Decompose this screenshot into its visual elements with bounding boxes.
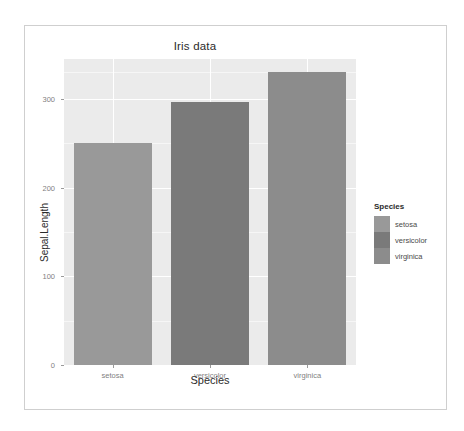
legend-swatch-setosa [374, 216, 390, 232]
x-axis-title: Species [64, 374, 356, 386]
plot-card: Iris data Sepal.Length 0100200300 setosa… [24, 25, 447, 410]
legend: Species setosaversicolorvirginica [374, 202, 444, 264]
x-tick-mark [210, 365, 211, 368]
bar-virginica [268, 72, 346, 365]
y-axis-title: Sepal.Length [39, 203, 50, 262]
y-tick-label: 300 [25, 94, 55, 103]
legend-label-versicolor: versicolor [395, 236, 427, 245]
legend-swatch-versicolor [374, 232, 390, 248]
legend-item-virginica: virginica [374, 248, 444, 264]
bar-setosa [74, 143, 152, 365]
legend-title: Species [374, 202, 444, 211]
x-tick-mark [307, 365, 308, 368]
plot-panel [64, 59, 356, 365]
y-tick-label: 100 [25, 272, 55, 281]
chart-title: Iris data [25, 40, 365, 52]
legend-item-setosa: setosa [374, 216, 444, 232]
bar-versicolor [171, 102, 249, 365]
legend-label-setosa: setosa [395, 220, 417, 229]
legend-swatch-virginica [374, 248, 390, 264]
y-tick-label: 0 [25, 361, 55, 370]
y-tick-label: 200 [25, 183, 55, 192]
x-tick-mark [113, 365, 114, 368]
legend-items: setosaversicolorvirginica [374, 216, 444, 264]
legend-label-virginica: virginica [395, 252, 423, 261]
legend-item-versicolor: versicolor [374, 232, 444, 248]
